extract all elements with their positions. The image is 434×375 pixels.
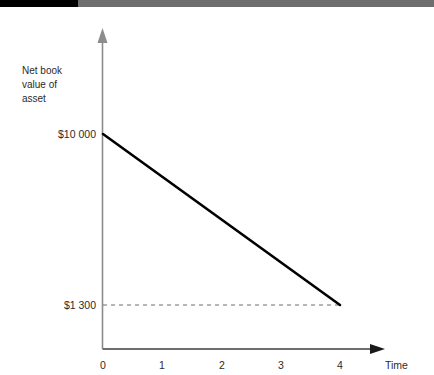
depreciation-chart: Net book value of asset $10 000 $1 300 0… [0,0,434,375]
y-axis-title-line-2: value of [22,79,57,90]
y-axis-title-line-1: Net book [22,65,63,76]
x-tick-label-2: 2 [219,359,225,371]
y-tick-label-10000: $10 000 [58,128,96,140]
x-axis-arrow-icon [370,344,385,354]
x-tick-label-0: 0 [100,359,106,371]
y-axis-title-line-3: asset [22,93,46,104]
x-axis-title: Time [385,359,408,371]
x-tick-label-3: 3 [278,359,284,371]
depreciation-line [103,134,340,305]
x-tick-label-1: 1 [159,359,165,371]
y-tick-label-1300: $1 300 [64,299,96,311]
screenshot-root: Net book value of asset $10 000 $1 300 0… [0,0,434,375]
y-axis-arrow-icon [98,28,108,43]
x-tick-label-4: 4 [337,359,343,371]
